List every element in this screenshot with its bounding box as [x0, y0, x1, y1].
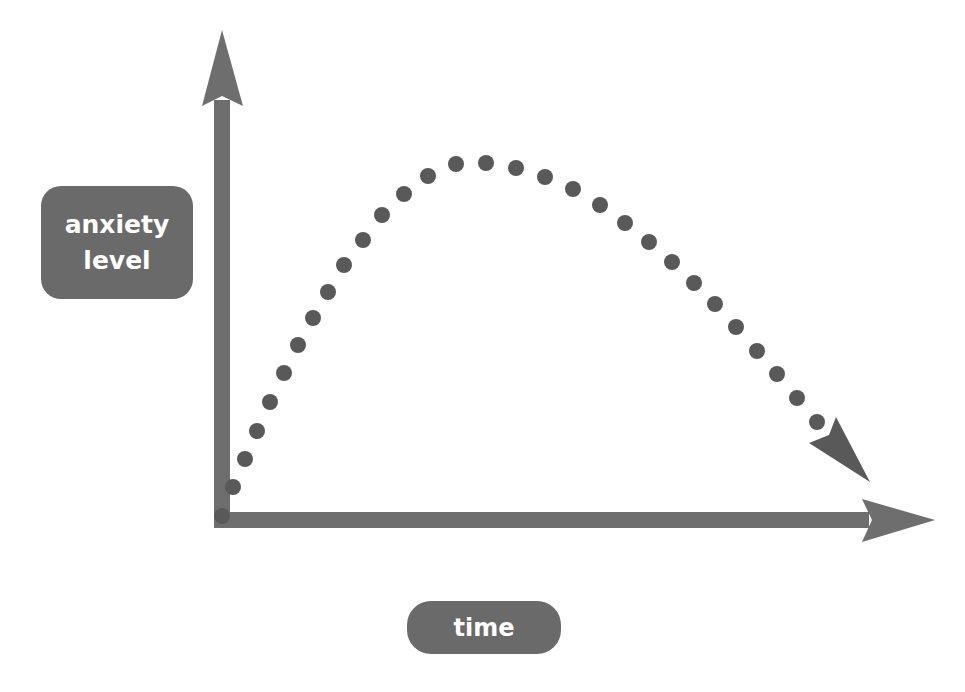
anxiety-curve-diagram [0, 0, 965, 692]
x-axis-label: time [407, 601, 561, 654]
x-axis [214, 499, 935, 542]
y-axis-label: anxiety level [41, 186, 193, 299]
dotted-curve [214, 155, 825, 524]
x-axis-label-text: time [454, 614, 515, 642]
y-axis [202, 30, 243, 528]
y-axis-label-line2: level [83, 243, 150, 279]
y-axis-label-line1: anxiety [65, 207, 170, 243]
x-axis-arrowhead-icon [862, 499, 935, 542]
y-axis-arrowhead-icon [202, 30, 243, 106]
